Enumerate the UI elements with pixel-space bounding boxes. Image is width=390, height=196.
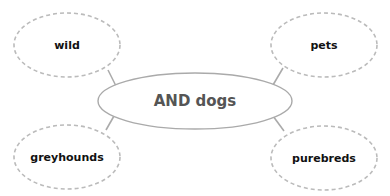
- connector-pets: [273, 68, 283, 85]
- center-node-label: AND dogs: [154, 92, 237, 110]
- connector-greyhounds: [106, 116, 114, 130]
- center-node[interactable]: AND dogs: [98, 73, 292, 129]
- concept-map: wild pets greyhounds purebreds AND dogs: [0, 0, 390, 196]
- node-wild[interactable]: wild: [14, 13, 120, 77]
- node-greyhounds[interactable]: greyhounds: [14, 125, 120, 189]
- node-pets[interactable]: pets: [271, 13, 377, 77]
- node-label-pets: pets: [310, 39, 338, 52]
- node-purebreds[interactable]: purebreds: [271, 126, 377, 190]
- connector-purebreds: [273, 116, 284, 131]
- node-label-wild: wild: [54, 39, 80, 52]
- node-label-greyhounds: greyhounds: [30, 151, 104, 164]
- connector-wild: [108, 70, 116, 86]
- node-label-purebreds: purebreds: [292, 152, 356, 165]
